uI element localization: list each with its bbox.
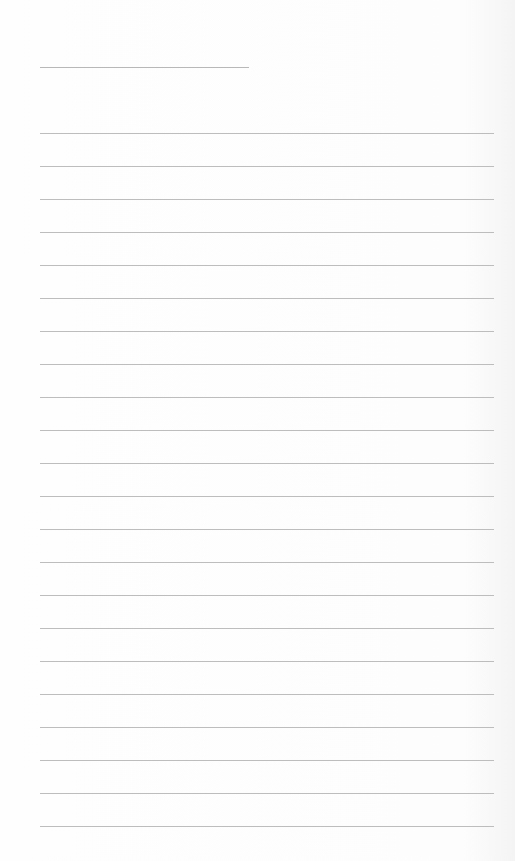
lined-page — [0, 0, 515, 861]
ruled-line[interactable] — [40, 430, 494, 431]
ruled-line[interactable] — [40, 595, 494, 596]
ruled-line[interactable] — [40, 793, 494, 794]
ruled-line[interactable] — [40, 562, 494, 563]
ruled-line[interactable] — [40, 826, 494, 827]
ruled-line[interactable] — [40, 694, 494, 695]
ruled-line[interactable] — [40, 628, 494, 629]
title-line[interactable] — [40, 67, 249, 68]
ruled-line[interactable] — [40, 661, 494, 662]
ruled-line[interactable] — [40, 166, 494, 167]
ruled-line[interactable] — [40, 298, 494, 299]
ruled-line[interactable] — [40, 727, 494, 728]
ruled-line[interactable] — [40, 397, 494, 398]
ruled-line[interactable] — [40, 133, 494, 134]
ruled-line[interactable] — [40, 463, 494, 464]
ruled-line[interactable] — [40, 496, 494, 497]
ruled-line[interactable] — [40, 232, 494, 233]
ruled-line[interactable] — [40, 265, 494, 266]
ruled-line[interactable] — [40, 199, 494, 200]
ruled-line[interactable] — [40, 331, 494, 332]
ruled-line[interactable] — [40, 760, 494, 761]
ruled-line[interactable] — [40, 529, 494, 530]
ruled-line[interactable] — [40, 364, 494, 365]
